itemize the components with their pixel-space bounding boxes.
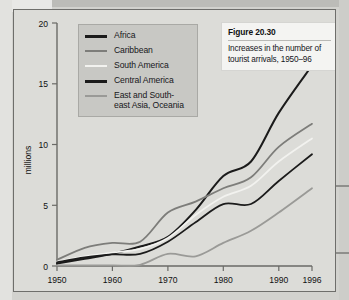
legend-item-central-america[interactable]: Central America (85, 75, 191, 85)
xtick-1996: 1996 (302, 275, 321, 285)
xtick-1970: 1970 (158, 275, 177, 285)
legend-swatch-central-america (85, 80, 107, 83)
chart-legend: Africa Caribbean South America Central A… (78, 24, 198, 117)
chart-figure-inner: 20 15 10 5 0 millions (14, 10, 335, 291)
legend-swatch-africa (85, 35, 107, 38)
x-axis-ticks (57, 266, 312, 271)
figure-screenshot: 20 15 10 5 0 millions (0, 0, 349, 300)
scan-artifact-right-margin (339, 0, 349, 300)
legend-label-caribbean: Caribbean (114, 45, 153, 55)
y-axis-tick-labels: 20 15 10 5 0 (38, 19, 48, 272)
xtick-1960: 1960 (103, 275, 122, 285)
ytick-10: 10 (38, 140, 48, 150)
legend-label-east-southeast-asia-oceania: East and South- east Asia, Oceania (114, 90, 184, 110)
x-axis-tick-labels: 1950 1960 1970 1980 1990 1996 (47, 275, 321, 285)
legend-item-caribbean[interactable]: Caribbean (85, 45, 191, 55)
y-axis-ticks (52, 23, 57, 266)
figure-caption-body: Increases in the number of tourist arriv… (228, 44, 331, 65)
y-axis-title: millions (23, 146, 33, 175)
ytick-5: 5 (43, 201, 48, 211)
scan-artifact-top (0, 0, 349, 7)
legend-label-central-america: Central America (114, 75, 174, 85)
scan-artifact-left-margin (0, 0, 12, 300)
legend-item-east-southeast-asia-oceania[interactable]: East and South- east Asia, Oceania (85, 90, 191, 110)
legend-swatch-east-southeast-asia-oceania (85, 95, 107, 97)
figure-caption-title: Figure 20.30 (228, 27, 331, 41)
xtick-1950: 1950 (47, 275, 66, 285)
series-line-caribbean (57, 124, 312, 260)
legend-swatch-south-america (85, 65, 107, 67)
chart-figure: 20 15 10 5 0 millions (13, 9, 336, 292)
xtick-1990: 1990 (269, 275, 288, 285)
xtick-1980: 1980 (214, 275, 233, 285)
legend-label-south-america: South America (114, 60, 169, 70)
ytick-15: 15 (38, 79, 48, 89)
legend-item-south-america[interactable]: South America (85, 60, 191, 70)
figure-caption-box: Figure 20.30 Increases in the number of … (221, 22, 335, 71)
series-line-south-america (57, 138, 312, 261)
legend-label-africa: Africa (114, 30, 135, 40)
ytick-20: 20 (38, 19, 48, 29)
ytick-0: 0 (43, 262, 48, 272)
legend-item-africa[interactable]: Africa (85, 30, 191, 40)
legend-swatch-caribbean (85, 50, 107, 52)
